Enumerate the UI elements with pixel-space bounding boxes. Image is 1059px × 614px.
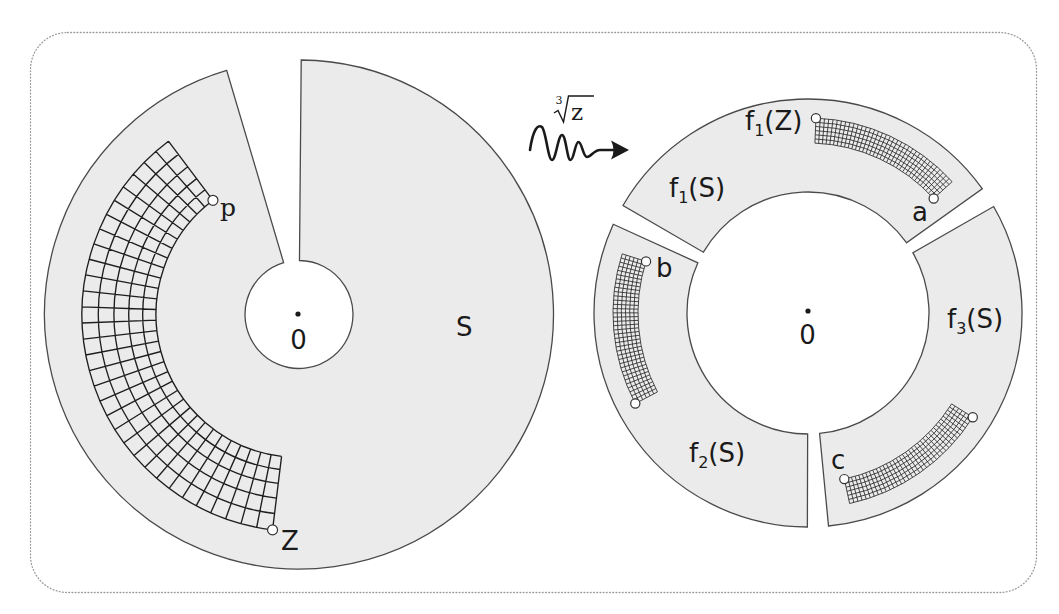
- label-arg: (S): [708, 438, 745, 468]
- origin-dot-image: [805, 308, 810, 313]
- point-f1Z-marker: [811, 114, 820, 123]
- point-f2Z-marker: [631, 399, 640, 408]
- label-origin-domain: 0: [290, 325, 307, 355]
- label-f1-S: f1(S): [669, 173, 725, 207]
- label-origin-image: 0: [799, 320, 816, 350]
- label-arg: (Z): [764, 106, 802, 136]
- point-a-marker: [929, 194, 938, 203]
- label-b: b: [656, 253, 673, 283]
- image-figure: f1(Z) f1(S) f2(S) f3(S) a b c 0: [594, 99, 1022, 527]
- label-Z: Z: [281, 526, 299, 556]
- arrowhead-icon: [611, 141, 629, 160]
- label-p: p: [220, 193, 236, 222]
- label-subscript: 3: [956, 319, 966, 338]
- root-index: 3: [556, 94, 563, 107]
- mapping-arrow: 3 z: [530, 94, 629, 160]
- label-a: a: [912, 197, 928, 227]
- label-arg: (S): [966, 304, 1003, 334]
- point-Z-marker: [268, 525, 278, 535]
- diagram-canvas: p Z 0 S 3 z f1(Z) f1(S) f2(S) f3(S) a: [0, 0, 1059, 614]
- label-subscript: 2: [698, 453, 708, 472]
- point-f3Z-marker: [968, 413, 977, 422]
- label-subscript: 1: [678, 188, 688, 207]
- point-c-marker: [840, 474, 849, 483]
- cube-root-label: 3 z: [554, 94, 594, 125]
- label-c: c: [831, 445, 845, 475]
- point-b-marker: [641, 257, 650, 266]
- root-radicand: z: [571, 99, 583, 125]
- squiggle-arrow-icon: [530, 126, 619, 160]
- label-f2-S: f2(S): [689, 438, 745, 472]
- label-f3-S: f3(S): [947, 304, 1003, 338]
- point-p-marker: [208, 195, 218, 205]
- label-subscript: 1: [754, 121, 764, 140]
- label-arg: (S): [688, 173, 725, 203]
- domain-figure: p Z 0 S: [44, 60, 553, 569]
- label-f1-Z: f1(Z): [745, 106, 802, 140]
- label-region-S: S: [456, 312, 473, 342]
- origin-dot-domain: [295, 311, 300, 316]
